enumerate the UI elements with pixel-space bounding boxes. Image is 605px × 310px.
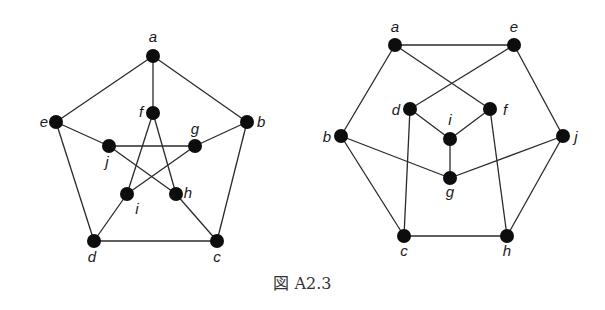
vertex-label-petersen-pentagon-star-a: a bbox=[149, 28, 157, 45]
vertex-label-petersen-pentagon-star-g: g bbox=[191, 120, 200, 137]
vertex-petersen-pentagon-star-g bbox=[188, 139, 202, 153]
vertex-label-petersen-pentagon-star-c: c bbox=[213, 248, 221, 265]
figure-caption: 図 A2.3 bbox=[0, 270, 605, 294]
vertex-label-petersen-hexagon-layout-a: a bbox=[391, 18, 399, 35]
vertex-label-petersen-pentagon-star-d: d bbox=[88, 248, 97, 265]
edge-petersen-hexagon-layout-f-i bbox=[450, 109, 490, 139]
edge-petersen-hexagon-layout-a-b bbox=[341, 45, 395, 136]
vertex-petersen-pentagon-star-j bbox=[102, 139, 116, 153]
edge-petersen-pentagon-star-b-g bbox=[195, 122, 247, 146]
edge-petersen-hexagon-layout-b-c bbox=[341, 136, 404, 236]
nodes bbox=[49, 38, 570, 248]
vertex-petersen-hexagon-layout-j bbox=[556, 129, 570, 143]
edge-petersen-hexagon-layout-a-f bbox=[395, 45, 490, 109]
vertex-label-petersen-pentagon-star-e: e bbox=[40, 113, 48, 130]
edge-petersen-pentagon-star-d-i bbox=[94, 194, 127, 241]
edge-petersen-pentagon-star-c-h bbox=[176, 194, 217, 241]
vertex-label-petersen-pentagon-star-j: j bbox=[103, 153, 109, 170]
edge-petersen-hexagon-layout-f-h bbox=[490, 109, 507, 236]
edge-petersen-hexagon-layout-b-g bbox=[341, 136, 450, 178]
vertex-petersen-hexagon-layout-h bbox=[500, 229, 514, 243]
edge-petersen-pentagon-star-b-c bbox=[217, 122, 247, 241]
vertex-label-petersen-pentagon-star-b: b bbox=[257, 113, 265, 130]
vertex-label-petersen-hexagon-layout-f: f bbox=[503, 101, 509, 118]
vertex-petersen-hexagon-layout-i bbox=[443, 132, 457, 146]
vertex-petersen-hexagon-layout-b bbox=[334, 129, 348, 143]
vertex-petersen-pentagon-star-b bbox=[240, 115, 254, 129]
vertex-label-petersen-hexagon-layout-b: b bbox=[323, 128, 331, 145]
vertex-label-petersen-hexagon-layout-j: j bbox=[572, 128, 578, 145]
edge-petersen-pentagon-star-f-h bbox=[153, 113, 176, 194]
vertex-label-petersen-hexagon-layout-d: d bbox=[392, 101, 401, 118]
vertex-petersen-hexagon-layout-e bbox=[507, 38, 521, 52]
vertex-label-petersen-hexagon-layout-h: h bbox=[503, 242, 511, 259]
vertex-label-petersen-hexagon-layout-e: e bbox=[510, 18, 518, 35]
vertex-petersen-pentagon-star-e bbox=[49, 115, 63, 129]
edge-petersen-pentagon-star-d-e bbox=[56, 122, 94, 241]
edge-petersen-pentagon-star-a-b bbox=[153, 56, 247, 122]
vertex-petersen-pentagon-star-i bbox=[120, 187, 134, 201]
vertex-label-petersen-hexagon-layout-c: c bbox=[400, 242, 408, 259]
vertex-petersen-hexagon-layout-f bbox=[483, 102, 497, 116]
edge-petersen-hexagon-layout-d-i bbox=[410, 109, 450, 139]
edge-petersen-hexagon-layout-e-d bbox=[410, 45, 514, 109]
vertex-petersen-pentagon-star-c bbox=[210, 234, 224, 248]
edge-petersen-pentagon-star-e-j bbox=[56, 122, 109, 146]
vertex-label-petersen-pentagon-star-i: i bbox=[135, 200, 139, 217]
edge-petersen-hexagon-layout-e-j bbox=[514, 45, 563, 136]
vertex-petersen-hexagon-layout-d bbox=[403, 102, 417, 116]
vertex-label-petersen-hexagon-layout-i: i bbox=[448, 111, 452, 128]
edges bbox=[56, 45, 563, 241]
edge-petersen-pentagon-star-f-i bbox=[127, 113, 153, 194]
edge-petersen-hexagon-layout-g-j bbox=[450, 136, 563, 178]
vertex-petersen-pentagon-star-d bbox=[87, 234, 101, 248]
vertex-petersen-hexagon-layout-a bbox=[388, 38, 402, 52]
vertex-petersen-hexagon-layout-c bbox=[397, 229, 411, 243]
graph-figure: abcdefghijaedfibjgch bbox=[0, 0, 605, 270]
edge-petersen-pentagon-star-h-j bbox=[109, 146, 176, 194]
edge-petersen-hexagon-layout-j-h bbox=[507, 136, 563, 236]
vertex-label-petersen-pentagon-star-h: h bbox=[184, 184, 192, 201]
vertex-petersen-pentagon-star-f bbox=[146, 106, 160, 120]
edge-petersen-hexagon-layout-d-c bbox=[404, 109, 410, 236]
vertex-petersen-pentagon-star-h bbox=[169, 187, 183, 201]
vertex-petersen-pentagon-star-a bbox=[146, 49, 160, 63]
vertex-label-petersen-pentagon-star-f: f bbox=[139, 103, 145, 120]
vertex-label-petersen-hexagon-layout-g: g bbox=[446, 183, 455, 200]
